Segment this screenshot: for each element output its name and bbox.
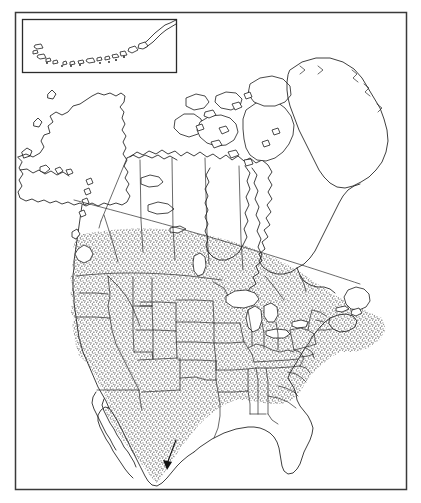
lake-huron: [264, 303, 278, 322]
range-map-figure: North America: [0, 0, 421, 503]
lake-ontario: [292, 320, 308, 328]
map-canvas: North America: [0, 0, 421, 503]
